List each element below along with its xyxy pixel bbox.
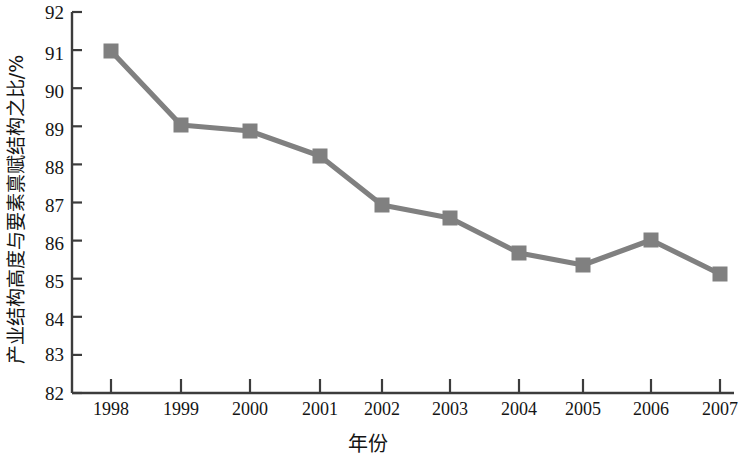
- x-tick-label: 2001: [302, 400, 338, 418]
- x-tick-label: 2004: [501, 400, 537, 418]
- x-tick-label: 2005: [565, 400, 601, 418]
- x-tick-label: 2003: [432, 400, 468, 418]
- x-tick-label: 2000: [232, 400, 268, 418]
- x-axis-title: 年份: [0, 428, 736, 457]
- x-tick-label: 2002: [364, 400, 400, 418]
- x-tick-label: 1998: [93, 400, 129, 418]
- x-tick-label: 2007: [702, 400, 738, 418]
- x-tick-label: 2006: [633, 400, 669, 418]
- x-tick-label: 1999: [163, 400, 199, 418]
